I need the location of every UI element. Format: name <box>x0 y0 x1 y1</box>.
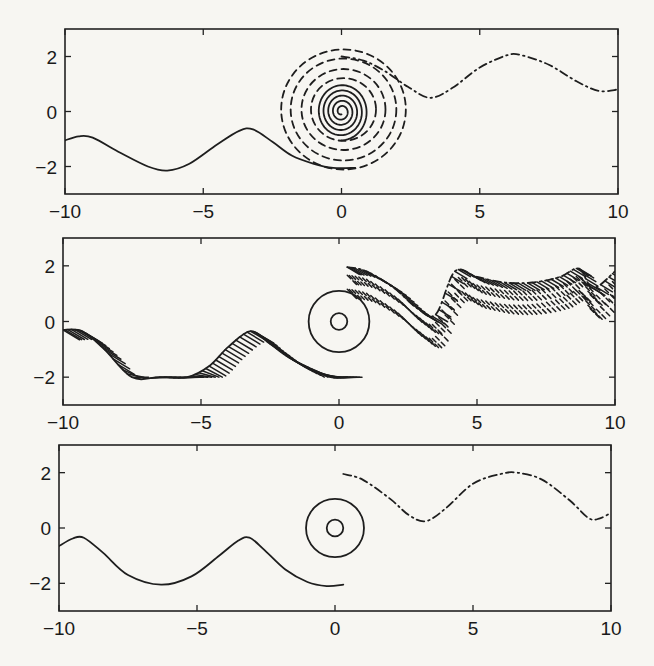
top-plot-panel: −10−50510−202 <box>35 29 628 222</box>
plot-area <box>63 267 625 379</box>
dashed-ring <box>281 49 406 169</box>
y-tick-label: −2 <box>35 157 57 178</box>
y-tick-label: 2 <box>40 463 51 484</box>
x-tick-label: −10 <box>47 412 79 433</box>
circle-curve <box>309 291 370 352</box>
plot-area <box>65 49 618 170</box>
wave-curve <box>59 537 343 587</box>
hatch-strokes <box>347 267 624 348</box>
dashed-ring <box>291 59 397 161</box>
x-tick-label: 10 <box>600 618 621 639</box>
spiral-curve <box>319 85 367 140</box>
x-tick-label: 0 <box>330 618 341 639</box>
x-tick-label: 5 <box>472 412 483 433</box>
circle-curve <box>327 520 344 537</box>
figure: −10−50510−202 −10−50510−202 −10−50510−20… <box>0 0 654 666</box>
circle-curve <box>331 313 348 330</box>
middle-plot-panel: −10−50510−202 <box>33 238 625 433</box>
y-tick-label: 2 <box>44 256 55 277</box>
y-tick-label: 0 <box>44 312 55 333</box>
x-tick-label: −10 <box>43 618 75 639</box>
y-tick-label: −2 <box>33 367 55 388</box>
x-tick-label: −5 <box>190 412 212 433</box>
x-tick-label: 10 <box>604 412 625 433</box>
wave-curve <box>343 472 611 521</box>
dashed-ring <box>301 69 385 150</box>
x-tick-label: −5 <box>186 618 208 639</box>
bottom-plot-panel: −10−50510−202 <box>29 445 621 639</box>
y-tick-label: 0 <box>40 518 51 539</box>
circle-curve <box>306 499 364 557</box>
x-tick-label: 0 <box>334 412 345 433</box>
x-tick-label: −10 <box>49 201 81 222</box>
y-tick-label: −2 <box>29 573 51 594</box>
y-tick-label: 2 <box>46 47 57 68</box>
x-tick-label: 0 <box>336 201 347 222</box>
x-tick-label: −5 <box>192 201 214 222</box>
x-tick-label: 5 <box>474 201 485 222</box>
plot-frame <box>63 238 615 405</box>
y-tick-label: 0 <box>46 102 57 123</box>
plot-area <box>59 472 611 586</box>
x-tick-label: 5 <box>468 618 479 639</box>
x-tick-label: 10 <box>607 201 628 222</box>
